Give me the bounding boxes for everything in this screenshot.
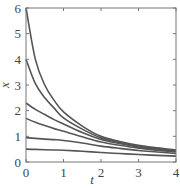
y-tick-label: 0 [15, 155, 22, 170]
y-tick-label: 3 [15, 78, 22, 93]
y-tick-label: 1 [15, 129, 22, 144]
x-axis-label: t [90, 172, 94, 187]
x-tick-label: 4 [173, 165, 180, 180]
x-tick-label: 3 [135, 165, 142, 180]
x-axis-ticks: 01234 [23, 8, 180, 180]
curves-group [26, 8, 176, 156]
chart: 0123456 01234 t x [0, 0, 180, 188]
y-tick-label: 2 [15, 103, 22, 118]
x-tick-label: 2 [98, 165, 105, 180]
y-axis-label: x [0, 82, 12, 89]
y-axis-ticks: 0123456 [15, 1, 177, 170]
y-tick-label: 6 [15, 1, 22, 16]
x-tick-label: 1 [60, 165, 67, 180]
x-tick-label: 0 [23, 165, 30, 180]
solution-curve [26, 8, 176, 150]
y-tick-label: 5 [15, 26, 22, 41]
y-tick-label: 4 [15, 52, 22, 67]
